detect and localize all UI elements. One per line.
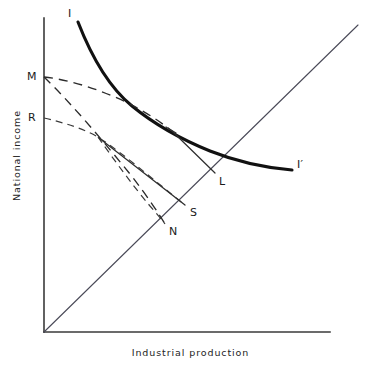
curve-r-s [44, 118, 185, 205]
label-point-r: R [28, 112, 36, 123]
forty-five-degree-line [44, 25, 358, 332]
curve-crossing-n [98, 137, 165, 224]
label-point-m: M [27, 71, 37, 82]
label-point-l: L [219, 176, 225, 187]
label-point-s: S [190, 207, 197, 218]
diagram-canvas [0, 0, 381, 376]
y-axis-label: National income [11, 96, 22, 216]
label-point-i: I [68, 8, 71, 19]
label-point-n: N [169, 226, 177, 237]
curve-i-iprime [78, 22, 292, 170]
economics-diagram-figure: I I′ M R N S L Industrial production Nat… [0, 0, 381, 376]
curve-m-n [44, 77, 165, 224]
x-axis-label: Industrial production [0, 347, 381, 358]
connector-crossing-s [99, 138, 185, 205]
label-point-i-prime: I′ [297, 159, 303, 170]
